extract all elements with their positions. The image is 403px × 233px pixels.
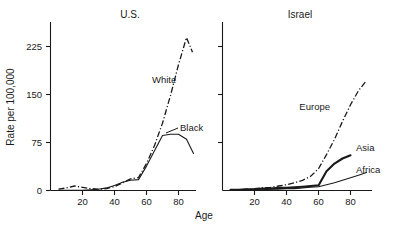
series-label-white: White [152,74,176,85]
panel-israel: 20 40 60 80 Israel Europe Asia Africa [218,9,381,207]
panel-us: 225 150 75 0 20 40 60 80 U.S. White [26,9,203,207]
x-tick-label-60-left: 60 [141,196,152,207]
series-label-africa: Africa [356,164,381,175]
series-label-asia: Asia [356,142,375,153]
chart-canvas: 225 150 75 0 20 40 60 80 U.S. White [0,0,403,233]
y-tick-label-0: 0 [37,185,42,196]
panel-title-israel: Israel [288,9,312,20]
series-curve-europe [231,81,367,190]
x-tick-label-80-left: 80 [173,196,184,207]
x-tick-label-20-left: 20 [77,196,88,207]
series-leader-black [166,128,178,133]
series-curve-black [59,134,194,190]
series-label-europe: Europe [299,101,330,112]
panel-title-us: U.S. [120,9,139,20]
chart-figure: 225 150 75 0 20 40 60 80 U.S. White [0,0,403,233]
x-tick-label-40-right: 40 [281,196,292,207]
series-curve-white [59,38,193,190]
y-tick-label-225: 225 [26,41,42,52]
x-tick-label-20-right: 20 [249,196,260,207]
y-axis-title: Rate per 100,000 [5,68,16,146]
y-tick-label-75: 75 [31,137,42,148]
x-tick-label-80-right: 80 [345,196,356,207]
x-axis-title: Age [195,210,213,221]
series-curve-asia [231,155,351,190]
y-tick-label-150: 150 [26,89,42,100]
series-label-black: Black [180,122,203,133]
x-tick-label-40-left: 40 [109,196,120,207]
x-tick-label-60-right: 60 [313,196,324,207]
